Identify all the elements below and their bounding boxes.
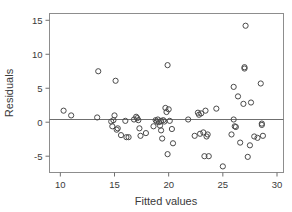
data-points bbox=[61, 23, 266, 169]
x-tick-label: 15 bbox=[109, 179, 120, 190]
x-tick-label: 10 bbox=[55, 179, 66, 190]
y-tick-label: 10 bbox=[32, 49, 43, 60]
data-point bbox=[118, 133, 123, 138]
data-point bbox=[229, 132, 234, 137]
data-point bbox=[158, 128, 163, 133]
residual-plot-figure: 1015202530 -5051015 Fitted values Residu… bbox=[0, 0, 292, 212]
data-point bbox=[69, 113, 74, 118]
data-point bbox=[165, 152, 170, 157]
data-point bbox=[137, 126, 142, 131]
data-point bbox=[258, 81, 263, 86]
data-point bbox=[260, 133, 265, 138]
y-tick-label: 0 bbox=[37, 117, 42, 128]
data-point bbox=[143, 130, 148, 135]
data-point bbox=[138, 133, 143, 138]
plot-frame bbox=[50, 14, 284, 173]
data-point bbox=[197, 131, 202, 136]
data-point bbox=[235, 94, 240, 99]
data-point bbox=[170, 141, 175, 146]
data-point bbox=[192, 133, 197, 138]
x-axis-ticks bbox=[60, 173, 277, 177]
data-point bbox=[214, 106, 219, 111]
data-point bbox=[243, 23, 248, 28]
plot-frame-rect bbox=[50, 14, 284, 173]
data-point bbox=[238, 140, 243, 145]
data-point bbox=[203, 108, 208, 113]
data-point bbox=[248, 100, 253, 105]
data-point bbox=[151, 124, 156, 129]
data-point bbox=[247, 143, 252, 148]
data-point bbox=[252, 134, 257, 139]
y-axis-title: Residuals bbox=[3, 68, 15, 117]
data-point bbox=[96, 69, 101, 74]
x-axis-tick-labels: 1015202530 bbox=[55, 179, 282, 190]
data-point bbox=[165, 63, 170, 68]
data-point bbox=[113, 78, 118, 83]
y-axis-tick-labels: -5051015 bbox=[32, 15, 43, 162]
x-tick-label: 20 bbox=[163, 179, 174, 190]
y-tick-label: -5 bbox=[34, 151, 42, 162]
data-point bbox=[115, 126, 120, 131]
scatter-plot-canvas: 1015202530 -5051015 Fitted values Residu… bbox=[0, 0, 292, 212]
data-point bbox=[241, 101, 246, 106]
data-point bbox=[245, 154, 250, 159]
y-tick-label: 15 bbox=[32, 15, 43, 26]
data-point bbox=[220, 164, 225, 169]
x-tick-label: 25 bbox=[218, 179, 229, 190]
data-point bbox=[231, 84, 236, 89]
data-point bbox=[112, 113, 117, 118]
data-point bbox=[61, 108, 66, 113]
data-point bbox=[169, 126, 174, 131]
y-tick-label: 5 bbox=[37, 83, 42, 94]
x-axis-title: Fitted values bbox=[135, 195, 198, 207]
data-point bbox=[160, 136, 165, 141]
data-point bbox=[255, 135, 260, 140]
y-axis-ticks bbox=[46, 20, 50, 156]
x-tick-label: 30 bbox=[272, 179, 283, 190]
